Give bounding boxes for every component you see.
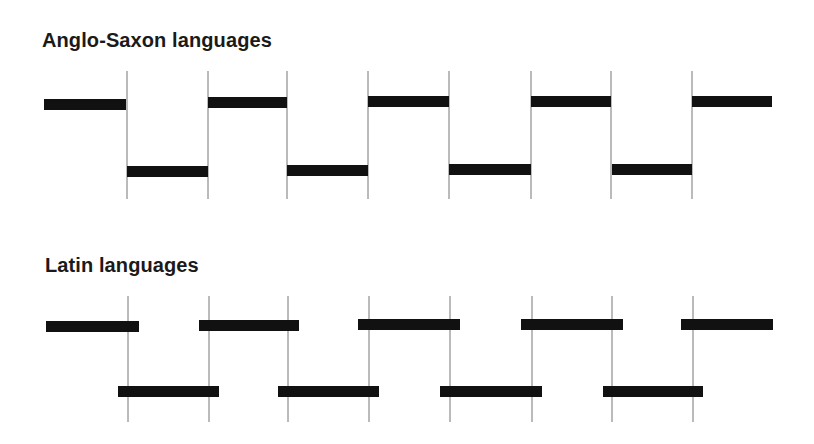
latin-timeline	[46, 296, 773, 422]
anglo-saxon-timeline	[44, 71, 772, 199]
syllable-bar-high	[208, 97, 287, 108]
syllable-bar-high	[692, 96, 772, 107]
syllable-bar-low	[278, 386, 379, 397]
syllable-bar-low	[127, 166, 208, 177]
syllable-bar-high	[521, 319, 623, 330]
syllable-bar-high	[358, 319, 460, 330]
syllable-bar-low	[449, 164, 531, 175]
syllable-bar-low	[287, 165, 368, 176]
syllable-bar-high	[44, 99, 126, 110]
syllable-bar-low	[440, 386, 542, 397]
syllable-bar-high	[531, 96, 611, 107]
syllable-bar-low	[612, 164, 692, 175]
syllable-bar-low	[603, 386, 703, 397]
syllable-bar-high	[368, 96, 449, 107]
syllable-bar-low	[118, 386, 219, 397]
syllable-bar-high	[681, 319, 773, 330]
syllable-bar-high	[46, 321, 139, 332]
rhythm-diagram	[0, 0, 814, 444]
syllable-bar-high	[199, 320, 299, 331]
